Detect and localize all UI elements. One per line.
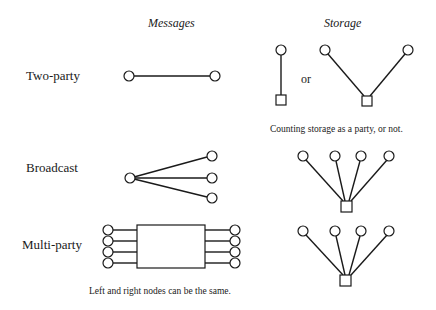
diagram-canvas: Messages Storage Two-party Broadcast Mul… — [0, 0, 436, 310]
party-node-icon — [403, 45, 413, 55]
party-node-icon — [356, 226, 366, 236]
broadcast-messages-graph — [125, 151, 217, 203]
receiver-node-icon — [207, 193, 217, 203]
party-node-icon — [276, 45, 286, 55]
right-node-icon — [230, 225, 240, 235]
party-node-icon — [384, 226, 394, 236]
left-node-icon — [103, 225, 113, 235]
party-node-icon — [210, 71, 220, 81]
two-party-storage-graph-a — [276, 45, 286, 105]
multi-party-storage-graph — [298, 226, 394, 286]
left-node-icon — [103, 247, 113, 257]
storage-square-icon — [340, 275, 351, 286]
receiver-node-icon — [207, 151, 217, 161]
party-node-icon — [320, 45, 330, 55]
multi-party-messages-graph — [103, 225, 240, 268]
storage-square-icon — [341, 201, 352, 212]
right-node-icon — [230, 236, 240, 246]
party-node-icon — [298, 151, 308, 161]
party-node-icon — [124, 71, 134, 81]
storage-square-icon — [276, 95, 286, 105]
two-party-messages-graph — [124, 71, 220, 81]
diagram-graphics — [0, 0, 436, 310]
party-node-icon — [384, 151, 394, 161]
two-party-storage-graph-b — [320, 45, 413, 106]
broadcast-storage-graph — [298, 151, 394, 212]
party-node-icon — [298, 226, 308, 236]
right-node-icon — [230, 258, 240, 268]
party-node-icon — [330, 151, 340, 161]
multi-party-channel-box — [137, 225, 205, 268]
storage-square-icon — [362, 96, 372, 106]
party-node-icon — [356, 151, 366, 161]
party-node-icon — [330, 226, 340, 236]
sender-node-icon — [125, 173, 135, 183]
right-node-icon — [230, 247, 240, 257]
receiver-node-icon — [207, 173, 217, 183]
left-node-icon — [103, 258, 113, 268]
left-node-icon — [103, 236, 113, 246]
